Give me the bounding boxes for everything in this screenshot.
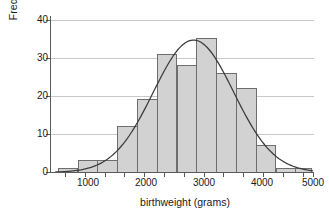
bar-11 — [276, 169, 295, 173]
x-tick-marks — [66, 173, 314, 177]
bar-10 — [256, 146, 275, 173]
y-tick-label-0: 0 — [28, 167, 48, 177]
bar-9 — [237, 88, 256, 172]
bar-7 — [197, 39, 216, 173]
x-axis-title: birthweight (grams) — [55, 196, 315, 208]
bar-8 — [217, 73, 236, 172]
y-tick-labels: 40 30 20 10 0 — [26, 0, 48, 215]
x-tick-label-2000: 2000 — [126, 177, 166, 188]
bar-5 — [157, 54, 176, 172]
y-tick-label-10: 10 — [28, 129, 48, 139]
bar-6 — [177, 66, 196, 173]
x-tick-label-3000: 3000 — [184, 177, 224, 188]
y-tick-label-20: 20 — [28, 91, 48, 101]
x-tick-label-5000: 5000 — [293, 177, 329, 188]
y-axis-title: Frequency — [7, 0, 19, 50]
y-tick-label-40: 40 — [28, 15, 48, 25]
y-tick-label-30: 30 — [28, 53, 48, 63]
bar-4 — [138, 100, 157, 172]
bar-1 — [78, 161, 97, 172]
x-tick-label-4000: 4000 — [242, 177, 282, 188]
bar-3 — [118, 127, 137, 173]
x-tick-label-1000: 1000 — [68, 177, 108, 188]
